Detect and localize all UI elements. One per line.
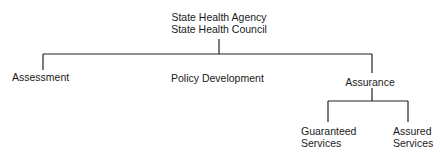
root-node: State Health Agency State Health Council: [171, 11, 267, 35]
root-line-1: State Health Agency: [171, 11, 267, 23]
guaranteed-line-1: Guaranteed: [301, 125, 356, 137]
root-line-2: State Health Council: [171, 23, 267, 35]
assured-line-1: Assured: [393, 125, 433, 137]
guaranteed-services-node: Guaranteed Services: [301, 125, 356, 149]
assured-services-node: Assured Services: [393, 125, 433, 149]
assurance-node: Assurance: [345, 76, 395, 88]
guaranteed-line-2: Services: [301, 137, 356, 149]
policy-development-node: Policy Development: [171, 72, 264, 84]
assessment-node: Assessment: [12, 71, 69, 83]
assured-line-2: Services: [393, 137, 433, 149]
